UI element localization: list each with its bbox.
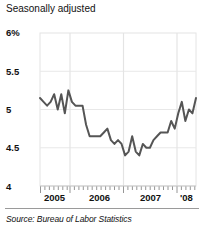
x-axis-minor-ticks <box>41 186 195 193</box>
source-note: Source: Bureau of Labor Statistics <box>6 214 132 224</box>
plot-area <box>0 0 204 204</box>
chart-svg <box>0 0 204 204</box>
chart-container: Seasonally adjusted 6% 5.5 5 4.5 4 2005 … <box>0 0 204 232</box>
footer-divider <box>5 208 199 209</box>
